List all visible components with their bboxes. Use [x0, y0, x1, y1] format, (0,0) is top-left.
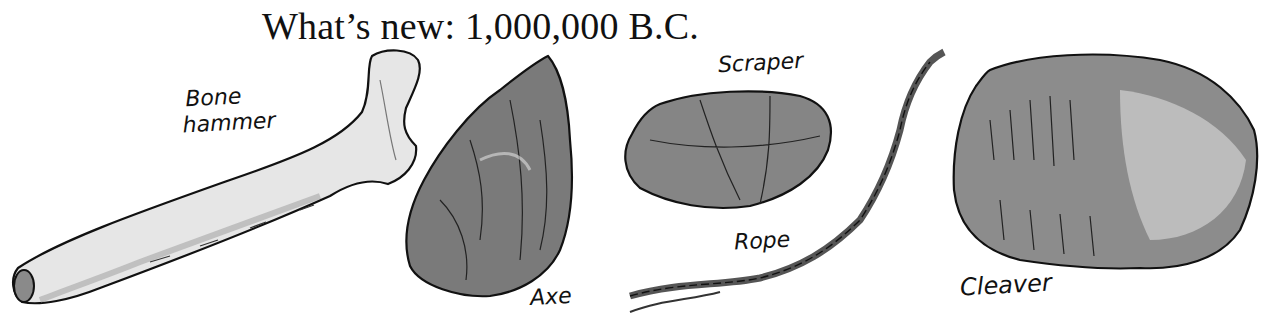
tools-illustration: [0, 0, 1268, 326]
axe-drawing: [406, 56, 571, 296]
bone-hammer-label-line2: hammer: [182, 108, 276, 139]
cleaver-label: Cleaver: [959, 270, 1052, 301]
bone-hammer-label: Bone hammer: [181, 82, 276, 139]
scraper-drawing: [625, 91, 831, 208]
axe-label: Axe: [529, 283, 572, 311]
cleaver-drawing: [954, 55, 1257, 269]
scraper-label: Scraper: [717, 48, 803, 78]
rope-label: Rope: [733, 227, 791, 256]
